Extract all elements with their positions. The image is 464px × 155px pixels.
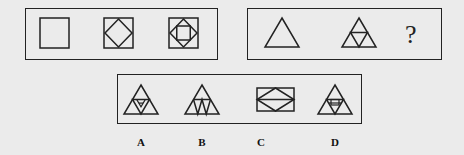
option-c-label[interactable]: C [251,136,271,148]
option-b-figure[interactable] [185,84,221,116]
figure-square [39,17,71,49]
figure-square-diamond-square [168,17,200,49]
option-b-label[interactable]: B [192,136,212,148]
option-c-figure[interactable] [256,87,296,113]
option-a-figure[interactable] [124,84,160,116]
option-a-label[interactable]: A [131,136,151,148]
option-d-figure[interactable] [318,84,354,116]
question-mark: ? [405,20,417,50]
option-d-label[interactable]: D [325,136,345,148]
figure-triangle-subdivided [342,17,378,49]
figure-square-diamond [103,17,135,49]
figure-triangle [265,17,301,49]
